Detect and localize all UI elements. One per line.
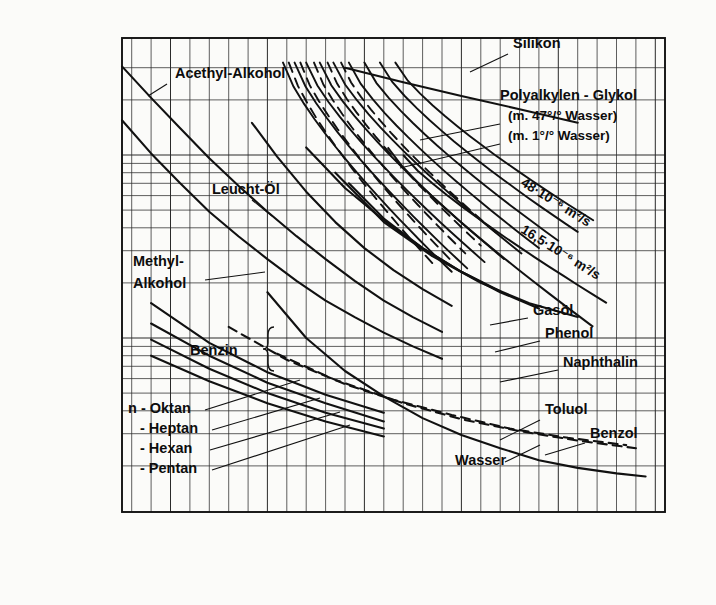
- label-gas-l: Gasöl: [533, 302, 573, 318]
- label-polyalkylen-glykol: Polyalkylen - Glykol: [500, 87, 637, 103]
- label-naphthalin: Naphthalin: [563, 354, 638, 370]
- label-toluol: Toluol: [545, 401, 587, 417]
- label-acethyl-alkohol: Acethyl-Alkohol: [175, 65, 285, 81]
- label-phenol: Phenol: [545, 325, 593, 341]
- label-benzin: Benzin: [190, 342, 238, 358]
- label-polyalkylen-glykol-note-2: (m. 1°/° Wasser): [508, 128, 610, 143]
- label-hexan: - Hexan: [140, 440, 192, 456]
- label-leucht-l: Leucht-Öl: [212, 181, 280, 197]
- label-polyalkylen-glykol-note-1: (m. 47°/° Wasser): [508, 108, 617, 123]
- label-benzol: Benzol: [590, 425, 638, 441]
- chart-svg: Acethyl-AlkoholMethyl-AlkoholLeucht-ÖlSi…: [0, 0, 716, 605]
- label-silikon: Silikon: [513, 35, 561, 51]
- label-heptan: - Heptan: [140, 420, 198, 436]
- label-methyl-alkohol: Methyl-: [133, 253, 184, 269]
- label-wasser: Wasser: [455, 452, 506, 468]
- viscosity-chart-figure: Acethyl-AlkoholMethyl-AlkoholLeucht-ÖlSi…: [0, 0, 716, 605]
- label-pentan: - Pentan: [140, 460, 197, 476]
- label-methyl-alkohol-2: Alkohol: [133, 275, 186, 291]
- label-n-oktan: n - Oktan: [128, 400, 191, 416]
